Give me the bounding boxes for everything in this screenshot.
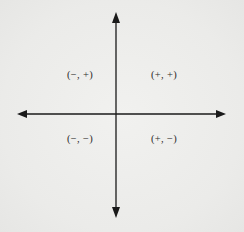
y-axis-up-arrow-icon	[112, 12, 120, 23]
quadrant-ii-label: (−, +)	[67, 69, 93, 80]
quadrant-i-label: (+, +)	[151, 69, 177, 80]
quadrant-iv-label: (+, −)	[151, 133, 177, 144]
axes-graphic	[0, 0, 244, 232]
x-axis-right-arrow-icon	[216, 110, 226, 118]
x-axis-left-arrow-icon	[17, 110, 27, 118]
coordinate-plane: (−, +) (+, +) (−, −) (+, −)	[0, 0, 244, 232]
quadrant-iii-label: (−, −)	[67, 133, 93, 144]
y-axis-down-arrow-icon	[112, 207, 120, 218]
